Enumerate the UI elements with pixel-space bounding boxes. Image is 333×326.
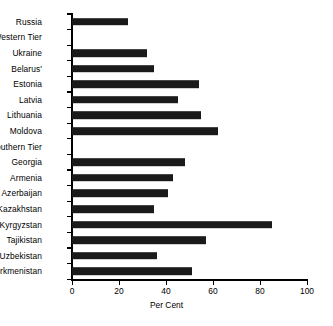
category-label: Russia [16,17,42,26]
bar-row: Estonia [72,76,307,92]
bar-row: Tajikistan [72,232,307,248]
bar [72,112,201,120]
bar [72,268,192,276]
x-tick [72,280,73,285]
category-label: Tajikistan [7,236,42,245]
x-tick-label: 100 [300,286,314,296]
x-tick-label: 20 [114,286,123,296]
category-label: Azerbaijan [1,189,42,198]
bar-row: Moldova [72,123,307,139]
bar [72,158,185,166]
category-label: Kyrgyzstan [0,220,42,229]
x-axis-title: Per Cent [0,300,333,310]
bar-row: Lithuania [72,108,307,124]
x-axis-line [71,279,308,281]
category-label: Western Tier [0,33,42,42]
x-tick [260,280,261,285]
x-tick-label: 60 [208,286,217,296]
bar [72,236,206,244]
bar [72,252,157,260]
bar-row: Uzbekistan [72,248,307,264]
category-label: Estonia [13,80,42,89]
bar-row: Western Tier [72,30,307,46]
category-label: Turkmenistan [0,267,42,276]
bar-chart: RussiaWestern TierUkraineBelarus'Estonia… [0,0,333,326]
bar [72,49,147,57]
x-tick [119,280,120,285]
bar [72,65,154,73]
bar [72,190,168,198]
bar [72,205,154,213]
bar [72,127,218,135]
bar-row: Kazakhstan [72,201,307,217]
x-tick-label: 80 [255,286,264,296]
bar [72,18,128,26]
bar-row: Georgia [72,154,307,170]
category-label: Uzbekistan [0,251,42,260]
bar-row: Turkmenistan [72,264,307,280]
bar-row: Armenia [72,170,307,186]
bar-row: Azerbaijan [72,186,307,202]
bar-row: Kyrgyzstan [72,217,307,233]
category-label: Kazakhstan [0,204,42,213]
category-label: Lithuania [7,111,42,120]
x-tick [213,280,214,285]
bar [72,80,199,88]
bar [72,96,178,104]
bar [72,174,173,182]
plot-area: RussiaWestern TierUkraineBelarus'Estonia… [72,14,307,279]
x-tick [307,280,308,285]
category-label: Ukraine [12,48,42,57]
category-label: Southern Tier [0,142,42,151]
bar-row: Belarus' [72,61,307,77]
category-label: Armenia [10,173,42,182]
x-tick-label: 40 [161,286,170,296]
bar-row: Southern Tier [72,139,307,155]
bar-row: Russia [72,14,307,30]
x-tick-label: 0 [70,286,75,296]
category-label: Latvia [19,95,42,104]
category-label: Moldova [10,126,42,135]
x-tick [166,280,167,285]
category-label: Belarus' [11,64,42,73]
category-label: Georgia [12,158,43,167]
bar [72,221,272,229]
bar-row: Latvia [72,92,307,108]
bar-row: Ukraine [72,45,307,61]
